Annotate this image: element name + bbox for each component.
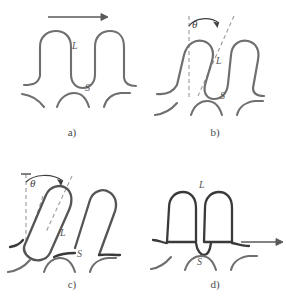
panel-d: L S d) [143, 154, 286, 307]
panel-c-angle-label: θ [30, 178, 35, 189]
panel-b-angle-label: θ [192, 19, 197, 30]
panel-a-caption: a) [52, 126, 92, 138]
panel-c-substrate-arcs [8, 258, 116, 272]
panel-c-loop-label: L [60, 228, 66, 238]
panel-d-loop-2 [204, 192, 232, 242]
panel-d-substrate-arcs [151, 256, 257, 270]
figure-canvas: L S a) θ [0, 0, 286, 307]
panel-b-loop-chain [157, 41, 264, 99]
panel-b: θ L S b) [143, 0, 286, 154]
panel-c-loop-1 [24, 186, 71, 260]
panel-a-direction-arrow [48, 14, 108, 21]
panel-d-loop-label: L [199, 180, 205, 190]
panel-a-substrate-label: S [85, 83, 90, 93]
panel-d-loop-1 [167, 192, 196, 242]
panel-b-caption: b) [195, 126, 235, 138]
panel-b-substrate-arcs [155, 101, 263, 115]
panel-b-substrate-label: S [220, 91, 225, 101]
panel-d-baseline [153, 240, 249, 255]
panel-d-caption: d) [195, 278, 235, 290]
panel-d-direction-arrow [241, 239, 283, 246]
panel-c-substrate-label: S [77, 249, 82, 259]
panel-c-caption: c) [52, 278, 92, 290]
panel-a-loop-label: L [72, 41, 78, 51]
panel-a: L S a) [0, 0, 143, 154]
panel-a-substrate-arcs [22, 93, 130, 107]
panel-d-substrate-label: S [197, 257, 202, 267]
panel-c: θ L S c) [0, 154, 143, 307]
panel-c-loop-2 [75, 190, 116, 255]
panel-b-loop-label: L [216, 56, 222, 66]
